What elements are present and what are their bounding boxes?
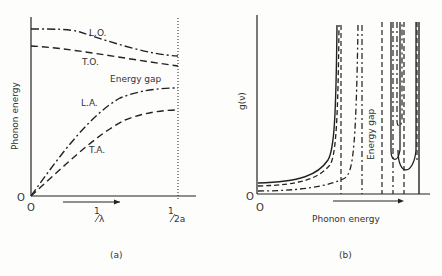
origin-x-label: O — [27, 202, 35, 213]
caption-a: (a) — [110, 250, 123, 260]
origin-y-label: O — [17, 192, 25, 203]
la-branch — [31, 88, 178, 196]
to-label: T.O. — [81, 57, 99, 67]
half-a-den: 2a — [174, 214, 185, 224]
half-a-num: 1 — [168, 206, 174, 216]
panel-a-dispersion — [31, 17, 196, 205]
optical-solid-band — [391, 22, 400, 159]
ta-label: T.A. — [88, 145, 105, 155]
origin-y-label: O — [246, 191, 254, 202]
inv-lambda-den: λ — [99, 214, 105, 224]
optical-solid-lower — [398, 22, 416, 170]
la-label: L.A. — [81, 98, 98, 108]
dos-dashdot-acoustic — [258, 25, 358, 191]
diagram-canvas: Phonon energy O O L.O. T.O. Energy gap L… — [0, 0, 442, 276]
panel-b-labels: g(ν) O O Energy gap Phonon energy (b) — [237, 92, 380, 260]
dos-solid-acoustic — [258, 25, 337, 183]
panel-a-labels: Phonon energy O O L.O. T.O. Energy gap L… — [10, 28, 185, 260]
y-axis-label: g(ν) — [237, 92, 247, 110]
x-axis-label: Phonon energy — [312, 214, 380, 224]
to-branch — [31, 46, 178, 66]
gap-label: Energy gap — [110, 74, 162, 84]
panel-b-dos — [257, 15, 430, 204]
origin-x-label: O — [256, 202, 264, 213]
y-axis-label: Phonon energy — [10, 82, 20, 150]
lo-label: L.O. — [89, 28, 106, 38]
gap-label: Energy gap — [366, 108, 376, 160]
caption-b: (b) — [339, 250, 352, 260]
